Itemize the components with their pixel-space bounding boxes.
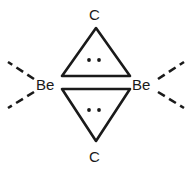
- atom-label-carbon-bottom: C: [89, 149, 100, 164]
- lower-triangle-ring: [62, 89, 130, 141]
- atom-label-carbon-top: C: [89, 7, 100, 22]
- lone-pair-dot-lower-1: [87, 108, 91, 112]
- dashed-bond-lower-right: [158, 92, 184, 108]
- upper-triangle-ring: [62, 28, 130, 76]
- chemical-structure-diagram: C C Be Be: [0, 0, 192, 171]
- structure-drawing: [0, 0, 192, 171]
- dashed-bond-upper-left: [8, 62, 34, 79]
- dashed-bond-upper-right: [158, 62, 184, 79]
- dashed-bond-lower-left: [8, 92, 34, 108]
- lone-pair-dot-lower-2: [97, 108, 101, 112]
- atom-label-beryllium-left: Be: [36, 77, 54, 92]
- atom-label-beryllium-right: Be: [132, 77, 150, 92]
- lone-pair-dot-upper-2: [97, 58, 101, 62]
- lone-pair-dot-upper-1: [87, 58, 91, 62]
